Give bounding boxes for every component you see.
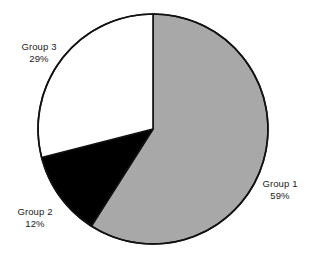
pie-label-group-2: Group 2 12%: [2, 206, 68, 230]
pie-label-group-2-percent: 12%: [2, 218, 68, 230]
pie-label-group-3: Group 3 29%: [8, 41, 70, 65]
pie-label-group-3-name: Group 3: [8, 41, 70, 53]
pie-label-group-1-name: Group 1: [252, 178, 308, 190]
pie-label-group-1: Group 1 59%: [252, 178, 308, 202]
pie-label-group-2-name: Group 2: [2, 206, 68, 218]
pie-chart-figure: Group 1 59% Group 2 12% Group 3 29%: [0, 0, 311, 262]
pie-label-group-1-percent: 59%: [252, 190, 308, 202]
pie-label-group-3-percent: 29%: [8, 53, 70, 65]
